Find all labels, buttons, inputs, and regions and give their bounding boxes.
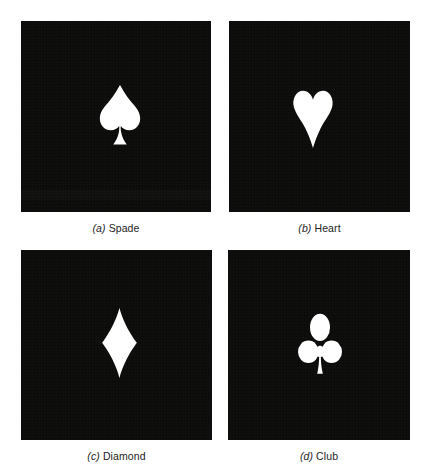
panel-diamond-image bbox=[21, 250, 212, 440]
caption-heart: (b) Heart bbox=[229, 222, 410, 235]
caption-text-b: Heart bbox=[314, 222, 340, 234]
panel-spade bbox=[21, 21, 211, 212]
caption-letter-b: (b) bbox=[298, 222, 311, 234]
panel-diamond bbox=[21, 250, 212, 440]
caption-letter-a: (a) bbox=[92, 222, 105, 234]
panel-spade-image bbox=[21, 21, 211, 212]
caption-text-c: Diamond bbox=[103, 450, 146, 462]
diamond-icon bbox=[101, 307, 138, 379]
caption-club: (d) Club bbox=[228, 450, 410, 463]
caption-letter-c: (c) bbox=[87, 450, 100, 462]
club-icon bbox=[298, 313, 342, 375]
panel-club-image bbox=[228, 250, 410, 440]
panel-heart-image bbox=[229, 21, 410, 212]
figure-root: (a) Spade (b) Heart (c) Diamond (d) Club bbox=[0, 0, 430, 475]
caption-text-d: Club bbox=[316, 450, 338, 462]
panel-heart bbox=[229, 21, 410, 212]
caption-letter-d: (d) bbox=[300, 450, 313, 462]
spade-icon bbox=[99, 84, 141, 147]
panel-grid bbox=[0, 0, 430, 475]
scan-band bbox=[21, 190, 211, 200]
panel-club bbox=[228, 250, 410, 440]
heart-icon bbox=[292, 89, 334, 149]
caption-diamond: (c) Diamond bbox=[21, 450, 212, 463]
caption-text-a: Spade bbox=[109, 222, 140, 234]
caption-spade: (a) Spade bbox=[21, 222, 211, 235]
